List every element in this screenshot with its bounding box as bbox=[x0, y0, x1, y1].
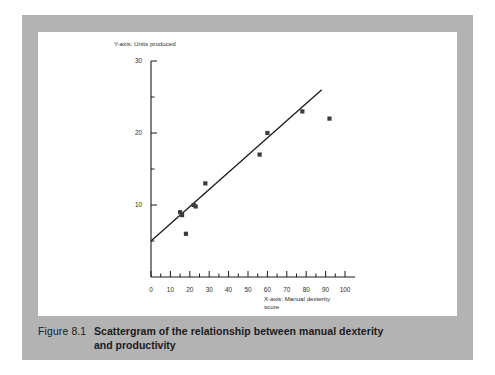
figure-panel: 0102030405060708090100 102030 Y-axis: Un… bbox=[22, 15, 473, 360]
y-tick-label: 10 bbox=[135, 201, 143, 208]
data-point bbox=[203, 181, 207, 185]
x-tick-label: 30 bbox=[206, 286, 214, 293]
data-point bbox=[258, 153, 262, 157]
y-axis-tick-labels: 102030 bbox=[135, 57, 143, 208]
x-axis-tick-labels: 0102030405060708090100 bbox=[149, 286, 351, 293]
scattergram-svg: 0102030405060708090100 102030 Y-axis: Un… bbox=[38, 32, 457, 316]
axes-group bbox=[151, 61, 355, 277]
best-fit-line bbox=[151, 90, 322, 241]
data-points-group bbox=[178, 109, 332, 236]
x-tick-label: 60 bbox=[264, 286, 272, 293]
x-tick-label: 100 bbox=[340, 286, 351, 293]
x-axis-ticks bbox=[151, 271, 345, 277]
figure-number: Figure 8.1 bbox=[38, 324, 94, 338]
figure-caption-line2: and productivity bbox=[94, 338, 463, 352]
y-axis-ticks bbox=[151, 61, 157, 241]
chart-card: 0102030405060708090100 102030 Y-axis: Un… bbox=[38, 32, 457, 316]
x-tick-label: 50 bbox=[244, 286, 252, 293]
x-tick-label: 0 bbox=[149, 286, 153, 293]
data-point bbox=[265, 131, 269, 135]
data-point bbox=[300, 109, 304, 113]
x-tick-label: 70 bbox=[283, 286, 291, 293]
figure-caption: Figure 8.1 Scattergram of the relationsh… bbox=[38, 324, 463, 352]
data-point bbox=[180, 213, 184, 217]
data-point bbox=[194, 204, 198, 208]
x-axis-title-line2: score bbox=[264, 303, 280, 310]
y-tick-label: 20 bbox=[135, 129, 143, 136]
data-point bbox=[327, 117, 331, 121]
scatter-plot: 0102030405060708090100 102030 Y-axis: Un… bbox=[38, 32, 457, 316]
x-tick-label: 20 bbox=[186, 286, 194, 293]
x-tick-label: 80 bbox=[303, 286, 311, 293]
y-axis-title: Y-axis: Units produced bbox=[114, 40, 176, 47]
x-tick-label: 90 bbox=[322, 286, 330, 293]
x-tick-label: 10 bbox=[167, 286, 175, 293]
x-axis-title-line1: X-axis: Manual dexterity bbox=[264, 295, 331, 302]
y-tick-label: 30 bbox=[135, 57, 143, 64]
figure-caption-line1: Scattergram of the relationship between … bbox=[94, 324, 383, 338]
data-point bbox=[184, 232, 188, 236]
x-tick-label: 40 bbox=[225, 286, 233, 293]
regression-line bbox=[151, 90, 322, 241]
